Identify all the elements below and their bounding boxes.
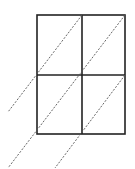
dashed-line-1 xyxy=(8,15,82,112)
dashed-line-3 xyxy=(55,75,125,168)
dashed-line-2 xyxy=(8,15,125,168)
grid-diagram xyxy=(0,0,135,169)
dashed-diagonals xyxy=(8,15,125,168)
